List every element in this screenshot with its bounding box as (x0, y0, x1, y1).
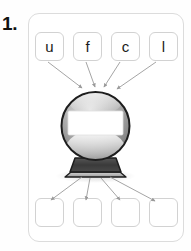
answer-tile-4[interactable] (149, 198, 178, 227)
letter-tile-l[interactable]: l (149, 32, 178, 61)
answer-tile-2[interactable] (73, 198, 102, 227)
letter-tile-u[interactable]: u (35, 32, 64, 61)
answer-tile-3[interactable] (111, 198, 140, 227)
letter-tile-c[interactable]: c (111, 32, 140, 61)
exercise-card: u f c l (28, 13, 184, 242)
letter-tile-u-label: u (45, 39, 53, 54)
letter-tile-f[interactable]: f (73, 32, 102, 61)
letter-tile-f-label: f (85, 39, 89, 54)
answer-tile-1[interactable] (35, 198, 64, 227)
letter-tile-row: u f c l (29, 32, 183, 62)
letter-tile-c-label: c (122, 39, 130, 54)
worksheet-page: 1. u f c l (0, 0, 191, 251)
letter-tile-l-label: l (162, 39, 165, 54)
answer-tile-row (29, 198, 183, 228)
question-number: 1. (2, 14, 17, 33)
